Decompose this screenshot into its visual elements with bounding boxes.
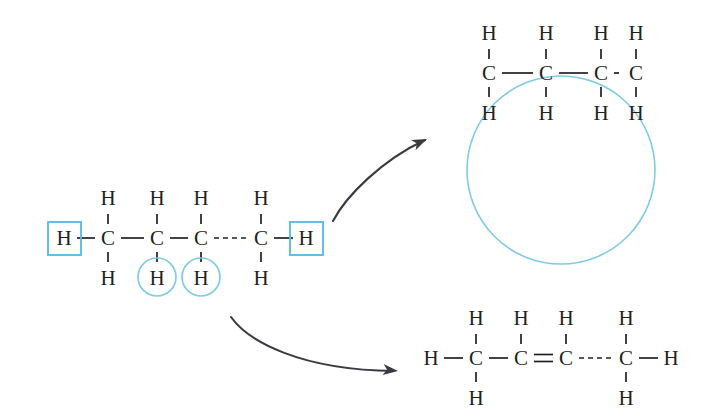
product-top-hydrogen-below-c2: H xyxy=(538,101,553,125)
reactant-carbon-3: C xyxy=(194,226,208,250)
diagram-canvas: HHHHCHHCHHCHHC HHCHHCHHCHHC HHHHCHCHCHHC xyxy=(0,0,710,412)
product-bottom-carbon-3: C xyxy=(559,346,573,370)
reactant-hydrogen-above-c1: H xyxy=(100,186,115,210)
reactant-terminal-hydrogen-right: H xyxy=(298,226,313,250)
product-bottom-structure: HHHHCHCHCHHC xyxy=(423,306,678,410)
product-top-hydrogen-above-c1: H xyxy=(481,21,496,45)
reactant-hydrogen-below-c3: H xyxy=(193,266,208,290)
reactant-carbon-1: C xyxy=(101,226,115,250)
product-top-hydrogen-below-c1: H xyxy=(481,101,496,125)
reactant-hydrogen-below-c2: H xyxy=(149,266,164,290)
reactant-terminal-hydrogen-left: H xyxy=(56,226,71,250)
reactant-structure: HHHHCHHCHHCHHC xyxy=(48,186,323,296)
product-bottom-hydrogen-above-c4: H xyxy=(618,306,633,330)
product-top-carbon-4: C xyxy=(629,61,643,85)
product-top-structure: HHCHHCHHCHHC xyxy=(467,21,655,264)
reactant-hydrogen-above-c3: H xyxy=(193,186,208,210)
product-top-hydrogen-above-c2: H xyxy=(538,21,553,45)
product-top-hydrogen-above-c4: H xyxy=(628,21,643,45)
arrow-to-alkene-product-path xyxy=(231,317,394,371)
product-bottom-terminal-hydrogen-right: H xyxy=(663,346,678,370)
reaction-diagram: HHHHCHHCHHCHHC HHCHHCHHCHHC HHHHCHCHCHHC xyxy=(0,0,710,412)
reactant-carbon-2: C xyxy=(150,226,164,250)
product-bottom-carbon-4: C xyxy=(619,346,633,370)
product-top-carbon-3: C xyxy=(594,61,608,85)
product-top-hydrogen-above-c3: H xyxy=(593,21,608,45)
reactant-hydrogen-above-c4: H xyxy=(253,186,268,210)
arrow-to-cyclization-product-head xyxy=(411,134,429,150)
product-bottom-hydrogen-above-c3: H xyxy=(558,306,573,330)
product-bottom-hydrogen-below-c1: H xyxy=(468,386,483,410)
product-bottom-hydrogen-above-c1: H xyxy=(468,306,483,330)
reactant-hydrogen-above-c2: H xyxy=(149,186,164,210)
product-top-carbon-1: C xyxy=(482,61,496,85)
product-bottom-carbon-1: C xyxy=(469,346,483,370)
product-top-hydrogen-below-c3: H xyxy=(593,101,608,125)
product-bottom-hydrogen-above-c2: H xyxy=(513,306,528,330)
product-top-carbon-2: C xyxy=(539,61,553,85)
arrow-to-cyclization-product-path xyxy=(333,140,425,221)
product-bottom-terminal-hydrogen-left: H xyxy=(423,346,438,370)
reactant-carbon-4: C xyxy=(254,226,268,250)
product-bottom-hydrogen-below-c4: H xyxy=(618,386,633,410)
reactant-hydrogen-below-c4: H xyxy=(253,266,268,290)
product-top-hydrogen-below-c4: H xyxy=(628,101,643,125)
product-bottom-carbon-2: C xyxy=(514,346,528,370)
reactant-hydrogen-below-c1: H xyxy=(100,266,115,290)
